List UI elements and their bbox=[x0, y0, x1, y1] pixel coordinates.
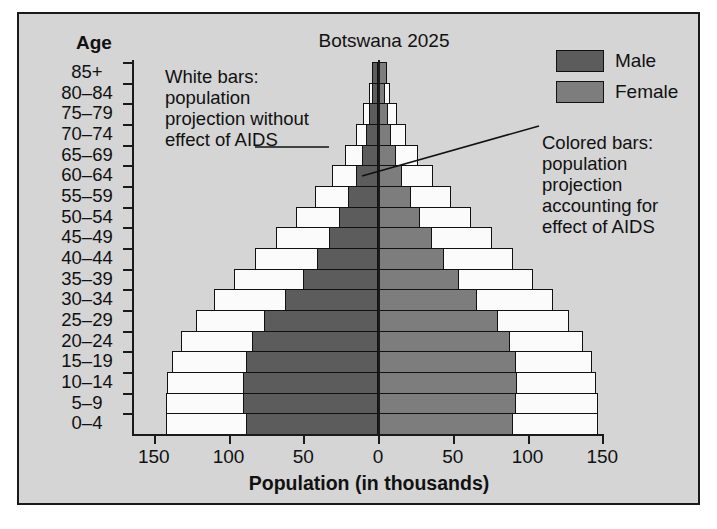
pyramid-row bbox=[133, 62, 603, 83]
bar-male bbox=[356, 165, 378, 187]
pyramid-row bbox=[133, 393, 603, 414]
age-label: 40–44 bbox=[43, 247, 131, 269]
bar-male bbox=[243, 393, 378, 415]
age-column-header: Age bbox=[57, 32, 131, 54]
bar-male bbox=[317, 248, 378, 270]
x-axis-tick bbox=[303, 435, 305, 444]
legend-label: Female bbox=[615, 81, 678, 103]
bar-male bbox=[366, 124, 378, 146]
x-axis-title: Population (in thousands) bbox=[169, 472, 569, 495]
bar-male bbox=[329, 227, 378, 249]
age-label: 45–49 bbox=[43, 226, 131, 248]
bar-male bbox=[348, 186, 378, 208]
bar-female bbox=[378, 186, 411, 208]
pyramid-row bbox=[133, 248, 603, 269]
y-axis-line bbox=[132, 60, 134, 436]
bar-male bbox=[339, 207, 378, 229]
age-label: 65–69 bbox=[43, 144, 131, 166]
x-axis-tick-label: 100 bbox=[199, 446, 259, 468]
x-axis-tick-label: 50 bbox=[273, 446, 333, 468]
bar-female bbox=[378, 207, 420, 229]
pyramid-row bbox=[133, 165, 603, 186]
x-axis-tick bbox=[602, 435, 604, 444]
pyramid-row bbox=[133, 289, 603, 310]
age-label: 30–34 bbox=[43, 288, 131, 310]
pyramid-row bbox=[133, 227, 603, 248]
bar-female bbox=[378, 165, 402, 187]
x-axis-tick bbox=[378, 435, 380, 444]
pyramid-row bbox=[133, 207, 603, 228]
bar-female bbox=[378, 269, 459, 291]
bar-female bbox=[378, 310, 498, 332]
age-label: 85+ bbox=[43, 61, 131, 83]
age-label: 50–54 bbox=[43, 206, 131, 228]
pyramid-row bbox=[133, 269, 603, 290]
bar-female bbox=[378, 372, 517, 394]
bar-male bbox=[252, 331, 378, 353]
bar-male bbox=[243, 372, 378, 394]
age-label: 20–24 bbox=[43, 330, 131, 352]
age-label: 35–39 bbox=[43, 268, 131, 290]
bar-female bbox=[378, 413, 513, 435]
bar-male bbox=[303, 269, 378, 291]
bar-male bbox=[246, 351, 378, 373]
zero-center-line bbox=[378, 60, 380, 436]
legend-label: Male bbox=[615, 50, 656, 72]
pyramid-row bbox=[133, 83, 603, 104]
x-axis-tick bbox=[154, 435, 156, 444]
pyramid-row bbox=[133, 351, 603, 372]
age-label: 15–19 bbox=[43, 350, 131, 372]
age-label: 80–84 bbox=[43, 82, 131, 104]
x-axis-tick bbox=[453, 435, 455, 444]
chart-frame: Botswana 2025 Age MaleFemale White bars:… bbox=[17, 12, 700, 505]
pyramid-row bbox=[133, 413, 603, 434]
age-label: 55–59 bbox=[43, 185, 131, 207]
x-axis-tick-label: 50 bbox=[423, 446, 483, 468]
x-axis-tick bbox=[229, 435, 231, 444]
bar-female bbox=[378, 393, 516, 415]
pyramid-row bbox=[133, 310, 603, 331]
bar-female bbox=[378, 124, 391, 146]
pyramid-row bbox=[133, 372, 603, 393]
x-axis-tick-label: 150 bbox=[124, 446, 184, 468]
x-axis-tick-label: 150 bbox=[572, 446, 632, 468]
age-label: 70–74 bbox=[43, 123, 131, 145]
pyramid-row bbox=[133, 331, 603, 352]
age-label: 0–4 bbox=[43, 412, 131, 434]
plot-area bbox=[133, 62, 603, 434]
bar-female bbox=[378, 331, 510, 353]
age-label: 25–29 bbox=[43, 309, 131, 331]
bar-female bbox=[378, 145, 396, 167]
bar-male bbox=[362, 145, 378, 167]
bar-female bbox=[378, 289, 477, 311]
bar-female bbox=[378, 227, 432, 249]
bar-female bbox=[378, 351, 516, 373]
pyramid-row bbox=[133, 186, 603, 207]
pyramid-row bbox=[133, 145, 603, 166]
age-label: 60–64 bbox=[43, 164, 131, 186]
age-label: 10–14 bbox=[43, 371, 131, 393]
pyramid-row bbox=[133, 103, 603, 124]
x-axis-line bbox=[132, 434, 604, 436]
bar-male bbox=[246, 413, 378, 435]
x-axis-tick-label: 100 bbox=[498, 446, 558, 468]
age-label: 75–79 bbox=[43, 102, 131, 124]
bar-male bbox=[285, 289, 378, 311]
x-axis-tick bbox=[528, 435, 530, 444]
bar-female bbox=[378, 248, 444, 270]
bar-male bbox=[264, 310, 378, 332]
chart-title: Botswana 2025 bbox=[269, 30, 499, 52]
age-label: 5–9 bbox=[43, 392, 131, 414]
pyramid-row bbox=[133, 124, 603, 145]
bar-male bbox=[369, 103, 378, 125]
x-axis-tick-label: 0 bbox=[348, 446, 408, 468]
